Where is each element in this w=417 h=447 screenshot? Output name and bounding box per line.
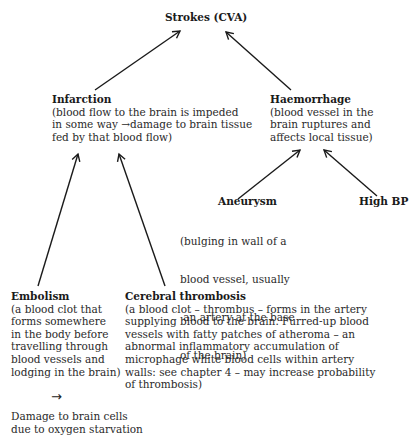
outcome-line: Damage to brain cells [11, 410, 143, 423]
node-desc-line: vessels with fatty patches of atheroma –… [125, 328, 375, 341]
node-title: Strokes (CVA) [165, 11, 247, 24]
node-title: Infarction [52, 93, 252, 106]
node-desc-line: in the body before [11, 328, 121, 341]
arrow-thrombosis-to-infarction [119, 154, 165, 286]
node-outcome: Damage to brain cells due to oxygen star… [11, 410, 143, 435]
node-strokes: Strokes (CVA) [165, 11, 247, 24]
node-desc-line: fed by that blood flow) [52, 131, 252, 144]
node-infarction: Infarction (blood flow to the brain is i… [52, 93, 252, 143]
node-haemorrhage: Haemorrhage (blood vessel in the brain r… [270, 93, 373, 143]
node-high-bp: High BP [359, 195, 408, 208]
node-desc-line: walls: see chapter 4 – may increase prob… [125, 366, 375, 379]
node-title: High BP [359, 195, 408, 208]
outcome-line: due to oxygen starvation [11, 423, 143, 436]
arrow-infarction-to-strokes [95, 31, 180, 90]
node-desc-line: brain ruptures and [270, 118, 373, 131]
node-desc-line: (a blood clot – thrombus – forms in the … [125, 303, 375, 316]
node-desc-line: in some way →damage to brain tissue [52, 118, 252, 131]
node-aneurysm-title: Aneurysm [218, 195, 277, 208]
node-desc-line: blood vessels and [11, 353, 121, 366]
node-desc-line: abnormal inflammatory accumulation of [125, 340, 375, 353]
arrow-embolism-to-infarction [38, 154, 78, 286]
node-desc-line: travelling through [11, 340, 121, 353]
node-title: Aneurysm [218, 195, 277, 208]
arrow-haemorrhage-to-strokes [226, 32, 291, 90]
node-desc-line: (a blood clot that [11, 303, 121, 316]
node-desc-line: lodging in the brain) [11, 366, 121, 379]
node-desc-line: supplying blood to the brain. Furred-up … [125, 315, 375, 328]
right-arrow-icon: → [51, 389, 62, 404]
node-desc-line: (blood flow to the brain is impeded [52, 106, 252, 119]
node-cerebral-thrombosis: Cerebral thrombosis (a blood clot – thro… [125, 290, 375, 391]
node-desc-line: of thrombosis) [125, 378, 375, 391]
node-title: Cerebral thrombosis [125, 290, 375, 303]
node-embolism: Embolism (a blood clot that forms somewh… [11, 290, 121, 378]
node-desc-line: (bulging in wall of a [180, 235, 295, 248]
node-title: Haemorrhage [270, 93, 373, 106]
node-desc-line: microphage white blood cells within arte… [125, 353, 375, 366]
node-desc-line: blood vessel, usually [180, 273, 295, 286]
node-desc-line: forms somewhere [11, 315, 121, 328]
node-desc-line: affects local tissue) [270, 131, 373, 144]
node-title: Embolism [11, 290, 121, 303]
node-desc-line: (blood vessel in the [270, 106, 373, 119]
arrow-highbp-to-haemorrhage [324, 150, 377, 196]
arrow-aneurysm-to-haemorrhage [238, 150, 300, 199]
